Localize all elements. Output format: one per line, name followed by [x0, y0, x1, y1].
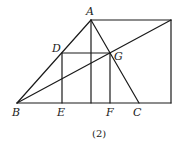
label-f: F	[105, 106, 114, 119]
label-d: D	[51, 42, 61, 55]
label-a: A	[85, 5, 94, 18]
label-e: E	[56, 106, 65, 119]
geometry-figure: A B C D E F G (2)	[0, 0, 181, 150]
label-c: C	[133, 106, 142, 119]
label-b: B	[11, 106, 20, 119]
segment-b-diagonal	[17, 20, 171, 103]
label-g: G	[114, 50, 123, 63]
figure-caption: (2)	[92, 128, 106, 139]
segment-ab	[17, 20, 91, 103]
